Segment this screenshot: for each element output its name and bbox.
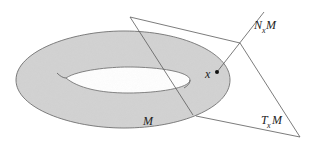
label-point-x: x xyxy=(204,67,211,81)
point-x-dot xyxy=(215,70,219,74)
plane-edge-bottom xyxy=(196,116,300,137)
svg-text:x: x xyxy=(266,121,271,130)
svg-text:M: M xyxy=(265,18,277,32)
torus-tangent-diagram: x M N x M T x M xyxy=(0,0,314,143)
label-normal-space: N x M xyxy=(253,18,277,35)
label-tangent-space: T x M xyxy=(261,113,283,130)
label-manifold-m: M xyxy=(142,114,154,128)
svg-text:M: M xyxy=(271,113,283,127)
torus-surface xyxy=(16,31,230,128)
